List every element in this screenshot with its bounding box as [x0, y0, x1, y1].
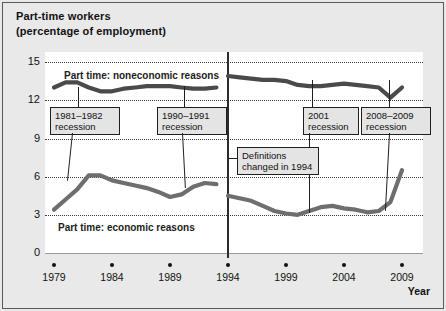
callout-2008-2009-recession: 2008–2009 recession — [361, 107, 431, 135]
x-tick-1999: 1999 — [266, 272, 306, 283]
gridline-0 — [45, 253, 423, 254]
y-tick-15: 15 — [14, 56, 40, 67]
gridline-6 — [45, 177, 423, 178]
definitions-change-divider — [227, 52, 229, 258]
callout-definitions-changed: Definitions changed in 1994 — [237, 147, 319, 175]
x-tick-dot-1999 — [284, 263, 288, 267]
page-title: Part-time workers (percentage of employm… — [16, 9, 166, 38]
gridline-15 — [45, 62, 423, 63]
x-tick-dot-1979 — [52, 263, 56, 267]
x-tick-dot-2009 — [400, 263, 404, 267]
callout-1981-1982-recession: 1981–1982 recession — [50, 107, 120, 135]
x-tick-dot-1989 — [168, 263, 172, 267]
gridline-9 — [45, 139, 423, 140]
y-tick-6: 6 — [14, 171, 40, 182]
x-tick-2009: 2009 — [382, 272, 422, 283]
leader-definitions — [228, 158, 237, 159]
x-axis-title: Year — [408, 285, 430, 297]
x-tick-1989: 1989 — [150, 272, 190, 283]
leader-2008-top — [389, 80, 390, 107]
x-tick-dot-2004 — [342, 263, 346, 267]
series-label-economic: Part time: economic reasons — [58, 222, 195, 233]
leader-1981-top — [78, 87, 79, 107]
callout-1990-1991-recession: 1990–1991 recession — [157, 107, 227, 135]
y-tick-9: 9 — [14, 133, 40, 144]
gridline-12 — [45, 100, 423, 101]
y-tick-3: 3 — [14, 209, 40, 220]
x-tick-1994: 1994 — [208, 272, 248, 283]
leader-2001-top — [312, 80, 313, 107]
gridline-3 — [45, 215, 423, 216]
x-tick-dot-1984 — [110, 263, 114, 267]
y-tick-12: 12 — [14, 94, 40, 105]
series-label-noneconomic: Part time: noneconomic reasons — [64, 70, 219, 81]
y-tick-0: 0 — [14, 247, 40, 258]
callout-2001-recession: 2001 recession — [303, 107, 359, 135]
leader-1990-top — [184, 86, 185, 107]
x-tick-1984: 1984 — [92, 272, 132, 283]
x-tick-dot-1994 — [226, 263, 230, 267]
x-tick-2004: 2004 — [324, 272, 364, 283]
x-tick-1979: 1979 — [34, 272, 74, 283]
chart-figure: Part-time workers (percentage of employm… — [0, 0, 446, 311]
